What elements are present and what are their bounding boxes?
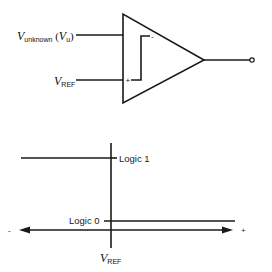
comparator-triangle <box>123 14 204 103</box>
logic-1-label: Logic 1 <box>119 153 150 164</box>
noninverting-input-sign: + <box>126 76 131 85</box>
axis-left-arrow-icon <box>19 227 30 234</box>
unknown-input-label: Vunknown (Vu) <box>17 29 74 43</box>
axis-positive-label: + <box>241 226 246 235</box>
comparator-diagram: Vunknown (Vu) VREF - + Logic 1 Logic 0 -… <box>0 0 272 272</box>
axis-right-arrow-icon <box>222 227 233 234</box>
ref-input-label: VREF <box>54 74 75 88</box>
inverting-input-sign: - <box>151 32 154 41</box>
axis-negative-label: - <box>8 226 11 235</box>
inner-step-symbol <box>131 36 150 80</box>
logic-0-label: Logic 0 <box>69 215 100 226</box>
output-terminal <box>250 58 254 62</box>
threshold-label: VREF <box>100 251 121 265</box>
